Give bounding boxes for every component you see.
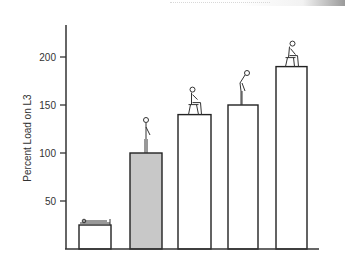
y-tick-label: 100	[39, 148, 56, 159]
bars-group	[79, 67, 307, 249]
y-ticks: 50100150200	[39, 52, 66, 207]
sitting-bent-figure-icon	[286, 41, 299, 67]
bar	[79, 225, 111, 249]
bending-figure-icon	[240, 71, 250, 106]
bar-chart: 50100150200 Percent Load on L3	[0, 0, 345, 267]
bar	[228, 105, 258, 249]
lying-figure-icon	[80, 219, 110, 225]
standing-figure-icon	[144, 118, 151, 154]
y-tick-label: 50	[45, 196, 57, 207]
bar	[276, 67, 307, 249]
bar	[130, 153, 162, 249]
bar	[178, 115, 211, 249]
sitting-figure-icon	[189, 87, 202, 115]
y-tick-label: 150	[39, 100, 56, 111]
y-tick-label: 200	[39, 52, 56, 63]
y-axis-title: Percent Load on L3	[22, 94, 33, 182]
